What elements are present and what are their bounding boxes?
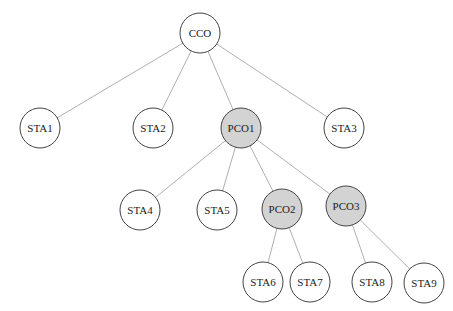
node-label: CCO xyxy=(189,27,212,39)
edges-layer xyxy=(40,33,424,283)
node-pco3: PCO3 xyxy=(326,186,366,226)
node-label: STA4 xyxy=(127,204,153,216)
node-sta5: STA5 xyxy=(197,190,237,230)
node-label: STA2 xyxy=(140,122,165,134)
node-label: PCO2 xyxy=(269,203,296,215)
node-sta1: STA1 xyxy=(20,108,60,148)
node-label: PCO1 xyxy=(228,122,255,134)
node-label: STA8 xyxy=(359,276,385,288)
node-sta7: STA7 xyxy=(290,262,330,302)
node-label: STA3 xyxy=(331,122,357,134)
node-sta8: STA8 xyxy=(352,262,392,302)
network-tree-diagram: CCOSTA1STA2PCO1STA3STA4STA5PCO2PCO3STA6S… xyxy=(0,0,453,311)
node-cco: CCO xyxy=(180,13,220,53)
node-label: STA7 xyxy=(297,276,323,288)
node-label: PCO3 xyxy=(333,200,360,212)
node-label: STA6 xyxy=(250,276,276,288)
node-pco2: PCO2 xyxy=(262,189,302,229)
node-pco1: PCO1 xyxy=(221,108,261,148)
node-sta6: STA6 xyxy=(243,262,283,302)
node-label: STA5 xyxy=(204,204,230,216)
node-sta2: STA2 xyxy=(133,108,173,148)
edge-cco-sta1 xyxy=(40,33,200,128)
edge-cco-sta3 xyxy=(200,33,344,128)
node-sta3: STA3 xyxy=(324,108,364,148)
node-label: STA1 xyxy=(27,122,52,134)
node-sta4: STA4 xyxy=(120,190,160,230)
node-sta9: STA9 xyxy=(404,263,444,303)
node-label: STA9 xyxy=(411,277,437,289)
